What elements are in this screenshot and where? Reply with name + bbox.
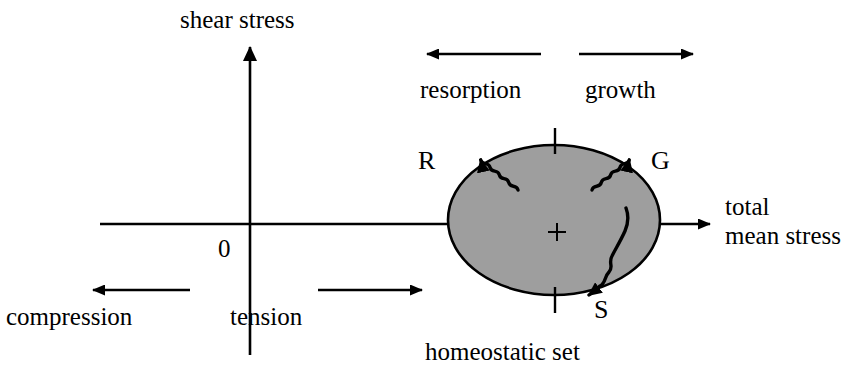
tension-label: tension <box>230 303 302 330</box>
growth-label: growth <box>585 76 656 103</box>
stress-state-diagram: shear stress total mean stress 0 resorpt… <box>0 0 852 381</box>
shear-stress-axis-label: shear stress <box>180 6 295 33</box>
origin-label: 0 <box>218 235 231 262</box>
homeostatic-set-caption: homeostatic set <box>425 338 580 365</box>
total-mean-stress-axis-label-line2: mean stress <box>725 222 841 249</box>
compression-label: compression <box>6 303 132 330</box>
resorption-label: resorption <box>420 76 521 103</box>
point-label-g: G <box>651 147 670 175</box>
point-label-s: S <box>594 296 608 324</box>
point-label-r: R <box>418 147 435 175</box>
total-mean-stress-axis-label-line1: total <box>725 193 769 220</box>
